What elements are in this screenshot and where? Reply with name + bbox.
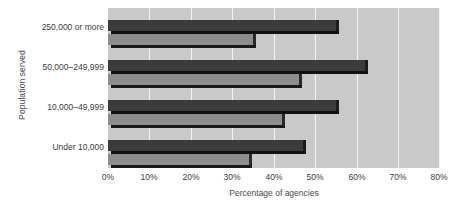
y-tick-label: 10,000–49,999 bbox=[18, 102, 104, 112]
bar-side bbox=[249, 154, 252, 165]
horizontal-bar-chart: Population served 250,000 or more 50,000… bbox=[0, 0, 467, 214]
bar-2000 bbox=[108, 34, 253, 45]
x-axis-tick-labels: 0% 10% 20% 30% 40% 50% 60% 70% 80% bbox=[108, 172, 440, 186]
gridline bbox=[439, 8, 440, 168]
x-tick-label: 10% bbox=[129, 172, 169, 182]
x-tick-label: 40% bbox=[254, 172, 294, 182]
bar-2000 bbox=[108, 114, 282, 125]
bar-face bbox=[108, 20, 336, 31]
bar-shadow bbox=[111, 165, 252, 168]
y-tick-label: Under 10,000 bbox=[18, 142, 104, 152]
x-tick-label: 70% bbox=[378, 172, 418, 182]
bar-face bbox=[108, 114, 282, 125]
bar-shadow bbox=[111, 85, 302, 88]
x-tick-label: 0% bbox=[88, 172, 128, 182]
bar-side bbox=[336, 20, 339, 31]
bar-face bbox=[108, 100, 336, 111]
bar-2003 bbox=[108, 140, 303, 151]
bar-side bbox=[303, 140, 306, 151]
bar-side bbox=[282, 114, 285, 125]
bar-side bbox=[336, 100, 339, 111]
y-axis-tick-labels: 250,000 or more 50,000–249,999 10,000–49… bbox=[14, 8, 104, 168]
bar-face bbox=[108, 74, 299, 85]
bar-face bbox=[108, 34, 253, 45]
bar-2000 bbox=[108, 74, 299, 85]
y-tick-label: 50,000–249,999 bbox=[18, 62, 104, 72]
bar-side bbox=[365, 60, 368, 71]
bar-2000 bbox=[108, 154, 249, 165]
x-tick-label: 50% bbox=[295, 172, 335, 182]
bar-shadow bbox=[111, 45, 256, 48]
gridline bbox=[398, 8, 399, 168]
bar-2003 bbox=[108, 60, 365, 71]
bar-face bbox=[108, 140, 303, 151]
x-axis-title: Percentage of agencies bbox=[108, 188, 440, 198]
gridline bbox=[357, 8, 358, 168]
x-tick-label: 20% bbox=[171, 172, 211, 182]
bar-2003 bbox=[108, 20, 336, 31]
bar-face bbox=[108, 60, 365, 71]
bar-side bbox=[253, 34, 256, 45]
bar-face bbox=[108, 154, 249, 165]
bar-shadow bbox=[111, 125, 285, 128]
y-tick-label: 250,000 or more bbox=[18, 22, 104, 32]
x-tick-label: 80% bbox=[419, 172, 459, 182]
bar-2003 bbox=[108, 100, 336, 111]
bar-side bbox=[299, 74, 302, 85]
x-tick-label: 30% bbox=[212, 172, 252, 182]
plot-area: 2003 2000 bbox=[108, 8, 440, 168]
x-tick-label: 60% bbox=[337, 172, 377, 182]
